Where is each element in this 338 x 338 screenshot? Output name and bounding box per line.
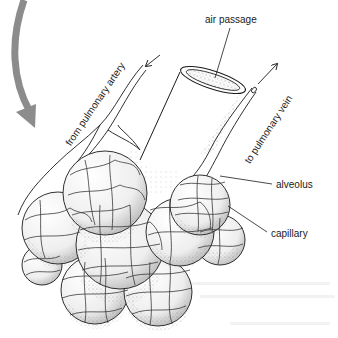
label-alveolus: alveolus xyxy=(276,180,313,190)
curved-arrow-icon xyxy=(15,0,36,128)
alveoli-cluster xyxy=(22,151,245,331)
label-capillary: capillary xyxy=(271,229,308,239)
label-air-passage: air passage xyxy=(205,15,257,25)
alveoli-diagram: air passage from pulmonary artery to pul… xyxy=(0,0,338,338)
alveolus-leader xyxy=(220,176,272,184)
diagram-svg xyxy=(0,0,338,338)
air-passage-leader xyxy=(215,28,230,78)
